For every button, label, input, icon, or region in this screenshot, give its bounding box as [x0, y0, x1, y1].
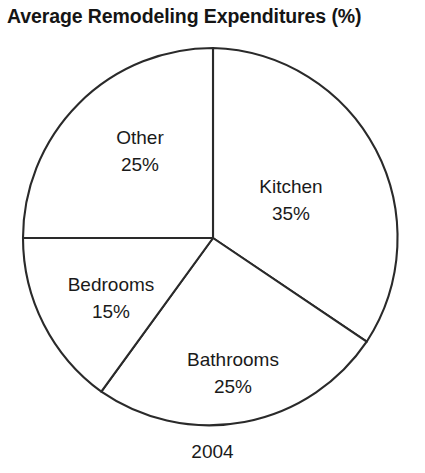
pie-label-bedrooms: Bedrooms 15%: [68, 271, 155, 325]
pie-label-bathrooms: Bathrooms 25%: [187, 346, 279, 400]
pie-chart-graphic: [0, 0, 425, 473]
pie-label-bedrooms-value: 15%: [68, 298, 155, 325]
pie-label-bedrooms-name: Bedrooms: [68, 271, 155, 298]
pie-label-other-value: 25%: [116, 151, 164, 178]
pie-label-other-name: Other: [116, 124, 164, 151]
pie-label-kitchen-name: Kitchen: [259, 173, 322, 200]
pie-label-bathrooms-name: Bathrooms: [187, 346, 279, 373]
pie-label-kitchen: Kitchen 35%: [259, 173, 322, 227]
pie-label-bathrooms-value: 25%: [187, 373, 279, 400]
pie-label-kitchen-value: 35%: [259, 200, 322, 227]
pie-chart-figure: Average Remodeling Expenditures (%) Othe…: [0, 0, 425, 473]
chart-caption-year: 2004: [0, 440, 425, 464]
pie-label-other: Other 25%: [116, 124, 164, 178]
